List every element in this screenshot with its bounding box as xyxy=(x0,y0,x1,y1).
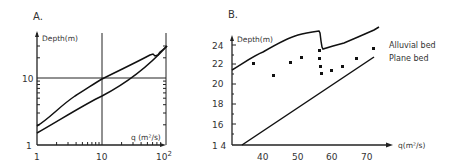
data-points xyxy=(252,47,375,77)
panel-a-xlabel: q (m²/s) xyxy=(131,133,161,142)
panel-b-label: B. xyxy=(228,9,238,20)
y-arrow-icon xyxy=(35,31,39,37)
panel-b-xlabel: q(m²/s) xyxy=(398,141,425,150)
panel-a-xtick-100: 102 xyxy=(156,150,172,162)
panel-b-ytick: 22 xyxy=(212,59,223,69)
plane-bed-curve xyxy=(242,57,374,145)
panel-b-xtick: 70 xyxy=(361,152,373,162)
panel-a-ylabel: Depth(m) xyxy=(42,34,78,43)
panel-a-xtick-10: 10 xyxy=(96,152,108,162)
panel-b-ytick: 16 xyxy=(212,120,224,130)
y-arrow-icon xyxy=(230,35,234,41)
panel-b-ytick: 24 xyxy=(212,41,224,51)
panel-a: A. xyxy=(22,11,172,162)
panel-a-ytick-10: 10 xyxy=(22,74,34,84)
panel-a-xtick-1: 1 xyxy=(34,152,40,162)
panel-a-ytick-1: 1 xyxy=(26,141,32,151)
legend-alluvial-bed: Alluvial bed xyxy=(389,41,436,50)
panel-b-ytick: 20 xyxy=(212,79,224,89)
panel-b-xtick: 40 xyxy=(257,152,269,162)
panel-b-ylabel: Depth(m) xyxy=(237,35,273,44)
figure: A. xyxy=(0,0,463,168)
legend-plane-bed: Plane bed xyxy=(389,54,429,63)
panel-b-ytick: 18 xyxy=(212,99,224,109)
panel-b-xtick: 60 xyxy=(326,152,338,162)
panel-b-xtick: 50 xyxy=(292,152,304,162)
panel-b-ytick: 1 4 xyxy=(212,141,227,151)
panel-b: B. Dept xyxy=(212,9,436,162)
x-arrow-icon xyxy=(386,143,393,148)
panel-a-label: A. xyxy=(33,11,43,22)
